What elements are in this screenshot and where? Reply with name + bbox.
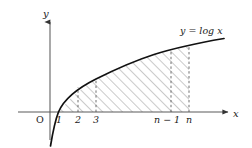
- x-axis-label: x: [233, 108, 239, 119]
- tick-label-1: 1: [56, 114, 62, 125]
- y-axis-label: y: [43, 8, 49, 19]
- figure-log-curve-area: y x O y = log x 1 2 3 n − 1 n: [0, 0, 252, 148]
- tick-label-n: n: [186, 114, 192, 125]
- tick-label-3: 3: [93, 114, 99, 125]
- plot-canvas: [0, 0, 252, 148]
- tick-label-n-minus-1: n − 1: [154, 114, 180, 125]
- origin-label: O: [36, 114, 44, 125]
- curve-label: y = log x: [180, 25, 223, 36]
- tick-label-2: 2: [75, 114, 81, 125]
